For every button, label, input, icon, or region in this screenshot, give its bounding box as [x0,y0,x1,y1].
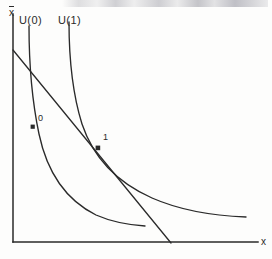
budget-line [13,50,171,243]
y-axis-label: x [9,6,14,18]
curve-label-u1: U(1) [58,15,81,26]
figure-container: x x U(0) U(1) 0 1 [0,0,272,259]
point-label-1: 1 [103,133,108,142]
point-label-0: 0 [38,114,43,123]
point-marker-1 [96,146,101,151]
figure-canvas [0,0,272,259]
x-axis-label: x [261,237,266,247]
curve-label-u0: U(0) [19,15,42,26]
indifference-curve-u0 [29,26,145,226]
y-axis-label-text: x [9,6,14,18]
indifference-curve-u1 [69,22,246,217]
point-marker-0 [31,125,35,129]
